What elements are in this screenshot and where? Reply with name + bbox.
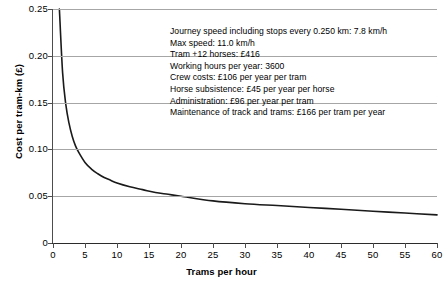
x-tick-label-50: 50 [358,250,388,260]
annotation-line-4: Working hours per year: 3600 [170,61,438,73]
y-tick-label-0.25: 0.25 [2,4,48,14]
annotation-line-1: Journey speed including stops every 0.25… [170,26,438,38]
x-tick-label-30: 30 [230,250,260,260]
annotation-line-2: Max speed: 11.0 km/h [170,38,438,50]
annotation-line-3: Tram +12 horses: £416 [170,49,438,61]
y-tick-label-0.10: 0.10 [2,144,48,154]
annotation-line-8: Maintenance of track and trams: £166 per… [170,107,438,119]
x-tick-label-40: 40 [294,250,324,260]
x-tick-mark-45 [341,243,342,248]
x-axis-title: Trams per hour [0,266,443,277]
y-axis-title: Cost per tram-km (£) [13,42,24,182]
gridline-y-0.25 [53,9,437,10]
y-tick-label-0.05: 0.05 [2,191,48,201]
x-tick-mark-60 [437,243,438,248]
x-tick-mark-5 [85,243,86,248]
y-tick-label-0.20: 0.20 [2,51,48,61]
x-tick-mark-55 [405,243,406,248]
x-tick-label-35: 35 [262,250,292,260]
x-tick-mark-25 [213,243,214,248]
annotation-line-6: Horse subsistence: £45 per year per hors… [170,84,438,96]
x-tick-mark-40 [309,243,310,248]
x-tick-label-5: 5 [70,250,100,260]
gridline-y-0.05 [53,196,437,197]
x-tick-label-15: 15 [134,250,164,260]
x-tick-mark-20 [181,243,182,248]
y-axis-line [52,9,53,243]
x-tick-mark-15 [149,243,150,248]
x-tick-mark-10 [117,243,118,248]
annotation-line-7: Administration: £96 per year per tram [170,96,438,108]
x-tick-mark-35 [277,243,278,248]
x-tick-label-0: 0 [38,250,68,260]
x-tick-label-60: 60 [422,250,443,260]
annotation-block: Journey speed including stops every 0.25… [170,26,438,119]
x-tick-mark-0 [53,243,54,248]
annotation-line-5: Crew costs: £106 per year per tram [170,72,438,84]
gridline-y-0.10 [53,149,437,150]
x-tick-label-10: 10 [102,250,132,260]
x-tick-label-55: 55 [390,250,420,260]
x-tick-mark-50 [373,243,374,248]
x-tick-label-20: 20 [166,250,196,260]
x-tick-label-45: 45 [326,250,356,260]
chart-container: 00.050.100.150.200.25 051015202530354045… [0,0,443,287]
y-tick-label-0.15: 0.15 [2,98,48,108]
x-tick-label-25: 25 [198,250,228,260]
x-tick-mark-30 [245,243,246,248]
